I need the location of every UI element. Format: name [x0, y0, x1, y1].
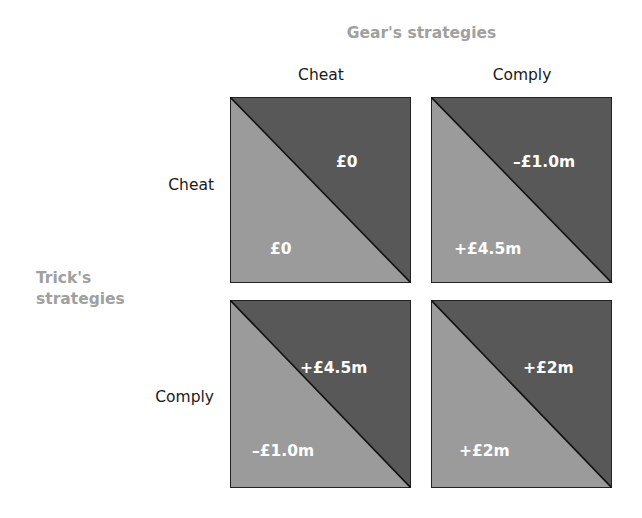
row-label-comply: Comply [134, 388, 214, 406]
payoff-cell-cheat-comply: –£1.0m +£4.5m [431, 97, 612, 283]
row-label-cheat: Cheat [134, 176, 214, 194]
column-label-comply: Comply [431, 66, 613, 84]
payoff-cell-comply-cheat: +£4.5m –£1.0m [230, 300, 411, 486]
gear-payoff: –£1.0m [513, 153, 575, 171]
trick-payoff: +£2m [459, 442, 510, 460]
row-player-title: Trick's strategies [36, 268, 146, 310]
gear-payoff: £0 [336, 153, 358, 171]
split-square-icon [230, 97, 411, 283]
payoff-cell-cheat-cheat: £0 £0 [230, 97, 411, 283]
payoff-cell-comply-comply: +£2m +£2m [431, 300, 612, 486]
column-label-cheat: Cheat [230, 66, 412, 84]
trick-payoff: +£4.5m [454, 240, 521, 258]
column-player-title: Gear's strategies [230, 24, 613, 42]
gear-payoff: +£4.5m [300, 359, 367, 377]
gear-payoff: +£2m [523, 359, 574, 377]
trick-payoff: £0 [270, 240, 292, 258]
trick-payoff: –£1.0m [252, 442, 314, 460]
